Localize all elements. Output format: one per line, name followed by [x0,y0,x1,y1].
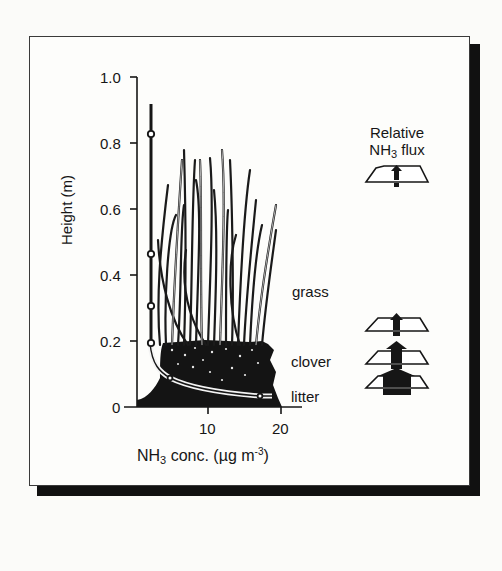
svg-text:0.4: 0.4 [100,267,121,284]
svg-text:0.6: 0.6 [100,201,121,218]
svg-text:1.0: 1.0 [100,69,121,86]
figure-canvas: 1.0 0.8 0.6 0.4 0.2 0 10 20 [0,0,502,571]
flux-icon-grass [366,313,428,336]
flux-legend-title: Relative NH3 flux [356,124,438,163]
y-axis-label: Height (m) [58,175,75,245]
svg-text:0.8: 0.8 [100,135,121,152]
flux-icon-clover [366,341,428,369]
label-litter: litter [291,389,319,405]
y-tick-labels: 1.0 0.8 0.6 0.4 0.2 0 [100,69,121,416]
x-axis [124,407,302,414]
label-clover: clover [291,354,331,370]
label-grass: grass [292,284,329,300]
x-axis-label: NH3 conc. (µg m-3) [137,446,269,466]
y-axis [130,77,137,407]
svg-text:0.2: 0.2 [100,333,121,350]
svg-text:10: 10 [199,420,216,437]
x-tick-labels: 10 20 [199,420,289,437]
svg-text:20: 20 [272,420,289,437]
flux-icon-litter [366,368,428,395]
svg-text:0: 0 [112,399,120,416]
flux-icon-top [366,165,428,187]
